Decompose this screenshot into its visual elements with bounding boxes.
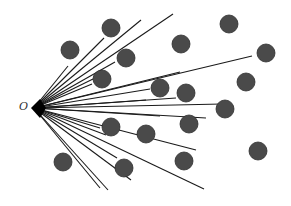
particle-circle bbox=[237, 73, 255, 91]
particle-circle bbox=[180, 115, 198, 133]
particle-circle bbox=[172, 35, 190, 53]
particle-circle bbox=[54, 153, 72, 171]
circles-group bbox=[54, 15, 275, 177]
ray-line bbox=[34, 108, 204, 189]
particle-circle bbox=[175, 152, 193, 170]
particle-circle bbox=[216, 100, 234, 118]
particle-circle bbox=[61, 41, 79, 59]
particle-circle bbox=[177, 84, 195, 102]
particle-circle bbox=[249, 142, 267, 160]
ray-line bbox=[34, 108, 108, 190]
particle-circle bbox=[137, 125, 155, 143]
particle-circle bbox=[115, 159, 133, 177]
particle-circle bbox=[93, 70, 111, 88]
particle-circle bbox=[220, 15, 238, 33]
ray-diagram bbox=[0, 0, 291, 206]
particle-circle bbox=[102, 118, 120, 136]
particle-circle bbox=[102, 19, 120, 37]
particle-circle bbox=[117, 49, 135, 67]
particle-circle bbox=[151, 79, 169, 97]
particle-circle bbox=[257, 44, 275, 62]
origin-label: O bbox=[19, 100, 28, 113]
